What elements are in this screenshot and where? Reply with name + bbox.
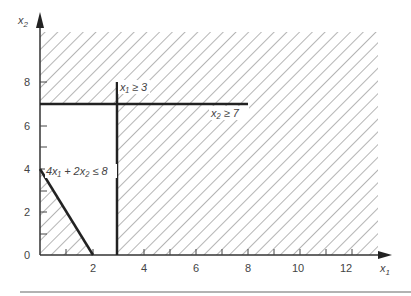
label-x1-ge-3: x₁ ≥ 3 [119,81,148,93]
y-axis-arrow-icon [36,12,44,28]
x-tick-12: 12 [340,262,352,274]
x-axis-arrow-icon [378,251,392,259]
y-axis-label: x2 [17,14,29,29]
y-tick-2: 2 [24,206,30,218]
x-axis-label: x1 [379,262,390,277]
hatched-regions [40,32,378,255]
x-tick-10: 10 [292,262,304,274]
y-tick-8: 8 [24,76,30,88]
label-x2-ge-7: x₂ ≥ 7 [210,107,240,119]
x-tick-2: 2 [90,262,96,274]
y-tick-0: 0 [24,249,30,261]
label-4x1-2x2-le-8: 4x₁ + 2x₂ ≤ 8 [46,165,109,177]
y-tick-6: 6 [24,120,30,132]
x-tick-4: 4 [141,262,147,274]
y-tick-4: 4 [24,163,30,175]
x-tick-8: 8 [245,262,251,274]
x-tick-6: 6 [193,262,199,274]
constraint-chart: 2 4 6 8 10 12 0 2 4 6 8 x2 x1 x₁ ≥ 3 x₂ … [0,0,411,296]
